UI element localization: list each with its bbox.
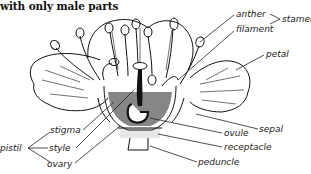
filament-leader [178,31,234,80]
label-peduncle: peduncle [197,157,240,167]
label-ovule: ovule [224,128,249,138]
anther-leader [200,15,234,42]
stigma [133,63,147,70]
flower-diagram: anther filament stamen petal sepal ovule… [0,0,311,174]
label-receptacle: receptacle [224,142,272,152]
petal-leader [236,55,264,70]
right-petal [190,61,250,112]
left-petal [30,54,108,111]
label-pistil: pistil [0,143,22,153]
receptacle [120,128,160,138]
leader-lines [28,14,280,163]
sepal-leader [196,114,258,129]
style [137,70,143,106]
peduncle [128,138,148,150]
label-sepal: sepal [259,124,283,134]
label-stigma: stigma [50,125,81,135]
peduncle-leader [150,146,197,162]
label-stamen: stamen [282,14,311,24]
stamens [49,18,206,86]
label-anther: anther [236,9,267,19]
receptacle-leader [158,134,222,147]
labels: anther filament stamen petal sepal ovule… [0,9,311,169]
label-ovary: ovary [47,159,73,169]
ovary-leader [75,126,120,163]
label-petal: petal [265,49,289,59]
stamen-bracket [270,14,280,24]
label-filament: filament [236,24,274,34]
label-style: style [49,143,71,153]
pistil-bracket [28,132,50,162]
